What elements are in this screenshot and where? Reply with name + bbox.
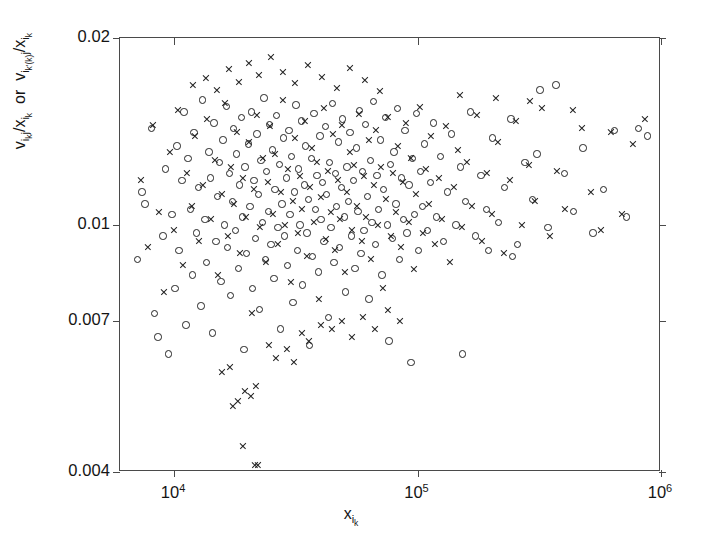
data-point-circle	[415, 247, 422, 254]
data-point-circle	[367, 157, 374, 164]
data-point-cross	[265, 341, 273, 349]
data-point-cross	[202, 74, 210, 82]
data-point-cross	[329, 130, 337, 138]
data-point-cross	[446, 258, 454, 266]
data-point-cross	[518, 221, 526, 229]
data-point-circle	[644, 132, 651, 139]
data-point-cross	[291, 79, 299, 87]
data-point-circle	[162, 165, 169, 172]
data-point-cross	[359, 313, 367, 321]
data-point-cross	[166, 148, 174, 156]
data-point-circle	[207, 174, 214, 181]
data-point-circle	[600, 186, 607, 193]
data-point-cross	[179, 261, 187, 269]
data-point-circle	[306, 342, 313, 349]
data-point-circle	[336, 244, 343, 251]
y-axis-tick-right	[659, 321, 666, 322]
data-point-circle	[377, 136, 384, 143]
data-point-circle	[533, 150, 540, 157]
data-point-cross	[242, 213, 250, 221]
data-point-circle	[184, 155, 191, 162]
data-point-circle	[298, 117, 305, 124]
data-point-cross	[195, 237, 203, 245]
data-point-cross	[545, 232, 553, 240]
data-point-cross	[253, 111, 261, 119]
data-point-cross	[404, 218, 412, 226]
data-point-circle	[452, 221, 459, 228]
data-point-cross	[372, 126, 380, 134]
data-point-circle	[227, 292, 234, 299]
data-point-circle	[529, 196, 536, 203]
data-point-cross	[362, 213, 370, 221]
data-point-circle	[411, 211, 418, 218]
data-point-cross	[187, 202, 195, 210]
scatter-plot-figure: 0.020.010.0070.004 104105106 vikj/xik or…	[0, 0, 702, 547]
data-point-circle	[278, 200, 285, 207]
data-point-circle	[392, 200, 399, 207]
data-point-circle	[330, 259, 337, 266]
data-point-circle	[243, 250, 250, 257]
data-point-circle	[339, 115, 346, 122]
data-point-circle	[197, 302, 204, 309]
data-point-cross	[407, 154, 415, 162]
data-point-circle	[372, 241, 379, 248]
y-axis-tick-label: 0.02	[77, 27, 110, 46]
data-point-circle	[245, 140, 252, 147]
data-point-cross	[397, 243, 405, 251]
data-point-circle	[323, 191, 330, 198]
data-point-circle	[214, 193, 221, 200]
data-point-cross	[332, 84, 340, 92]
y-axis-tick	[113, 225, 120, 226]
data-point-cross	[189, 81, 197, 89]
data-point-cross	[221, 99, 229, 107]
data-point-circle	[514, 241, 521, 248]
data-point-circle	[141, 200, 148, 207]
data-point-cross	[379, 284, 387, 292]
data-point-circle	[495, 219, 502, 226]
data-point-circle	[283, 174, 290, 181]
data-point-cross	[500, 249, 508, 257]
data-point-cross	[264, 178, 272, 186]
data-point-cross	[239, 442, 247, 450]
data-point-circle	[360, 227, 367, 234]
data-point-circle	[291, 188, 298, 195]
data-point-circle	[301, 181, 308, 188]
data-point-circle	[189, 271, 196, 278]
plot-area	[119, 37, 660, 471]
data-point-circle	[171, 285, 178, 292]
data-point-cross	[305, 337, 313, 345]
data-point-circle	[417, 168, 424, 175]
data-point-cross	[338, 317, 346, 325]
y-axis-tick	[113, 321, 120, 322]
y-axis-tick-label: 0.01	[77, 214, 110, 233]
data-point-circle	[462, 198, 469, 205]
x-axis-tick-top	[174, 38, 175, 45]
data-point-cross	[291, 134, 299, 142]
data-point-circle	[284, 262, 291, 269]
data-point-cross	[191, 132, 199, 140]
data-point-circle	[440, 238, 447, 245]
data-point-circle	[332, 170, 339, 177]
data-point-circle	[329, 100, 336, 107]
data-point-cross	[149, 121, 157, 129]
data-point-cross	[412, 190, 420, 198]
data-point-circle	[221, 221, 228, 228]
data-point-circle	[389, 235, 396, 242]
data-point-cross	[346, 64, 354, 72]
data-point-cross	[350, 161, 358, 169]
x-axis-title: xik	[0, 505, 702, 523]
data-point-cross	[279, 68, 287, 76]
data-point-cross	[360, 172, 368, 180]
data-point-cross	[357, 237, 365, 245]
data-point-circle	[413, 110, 420, 117]
data-point-circle	[313, 172, 320, 179]
data-point-cross	[211, 156, 219, 164]
data-point-circle	[561, 170, 568, 177]
data-point-circle	[262, 256, 269, 263]
data-point-circle	[359, 168, 366, 175]
data-point-circle	[380, 186, 387, 193]
data-point-cross	[629, 140, 637, 148]
data-point-cross	[578, 124, 586, 132]
data-point-circle	[229, 198, 236, 205]
data-point-cross	[304, 61, 312, 69]
